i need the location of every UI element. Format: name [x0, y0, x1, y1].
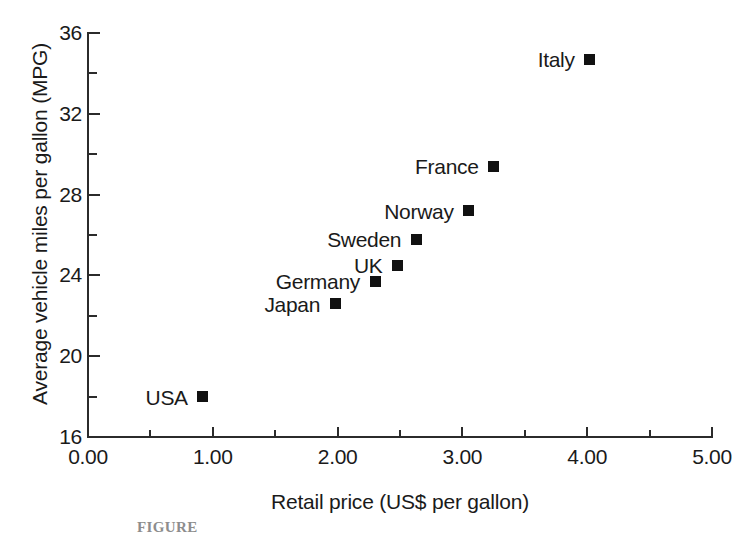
data-point-marker [392, 260, 403, 271]
data-point-label: USA [146, 386, 198, 407]
data-point-marker [488, 161, 499, 172]
data-point-label: Japan [264, 293, 330, 314]
y-axis-title: Average vehicle miles per gallon (MPG) [28, 4, 52, 444]
x-tick-label: 3.00 [407, 446, 517, 468]
x-axis-title: Retail price (US$ per gallon) [88, 490, 712, 514]
data-point-label: UK [354, 255, 393, 276]
data-point-marker [584, 54, 595, 65]
data-point-label: Sweden [327, 229, 411, 250]
data-point-marker [330, 298, 341, 309]
x-tick-label: 0.00 [33, 446, 143, 468]
x-tick-label: 2.00 [283, 446, 393, 468]
x-tick-label: 5.00 [657, 446, 745, 468]
data-point-label: France [415, 156, 489, 177]
data-point-marker [197, 391, 208, 402]
data-point-label: Italy [538, 49, 585, 70]
data-point-label: Norway [384, 200, 463, 221]
data-point-marker [463, 205, 474, 216]
data-point-marker [370, 276, 381, 287]
data-point-marker [411, 234, 422, 245]
figure-scatter-plot: 162024283236 0.001.002.003.004.005.00 Av… [0, 0, 745, 536]
data-points-layer: USAJapanGermanyUKSwedenNorwayFranceItaly [88, 33, 712, 437]
x-tick-label: 1.00 [158, 446, 268, 468]
x-tick-label: 4.00 [532, 446, 642, 468]
figure-caption: FIGURE [137, 519, 198, 536]
